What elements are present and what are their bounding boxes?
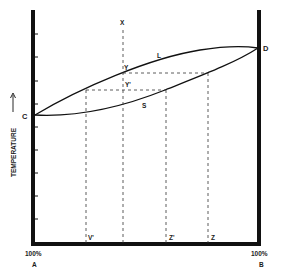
label-d: D [263,44,269,53]
label-z-prime: Z' [169,234,175,241]
axes [31,10,261,245]
label-100-b: 100% [251,250,268,257]
label-s-curve: S [142,102,147,109]
label-x: X [120,19,125,26]
label-100-a: 100% [25,250,42,257]
label-z: Z [211,234,215,241]
phase-diagram: C D X Y Y' L S V' Z' Z 100% A 100% B TEM… [0,0,282,276]
label-y: Y [124,64,129,71]
construction-lines [86,30,208,243]
label-y-prime: Y' [125,81,131,88]
y-axis-label: TEMPERATURE [10,127,17,177]
label-l-curve: L [157,52,161,59]
label-c: C [22,112,28,121]
label-b: B [259,261,264,268]
solidus-curve-S [35,48,258,115]
y-axis-label-group: TEMPERATURE [10,93,17,177]
liquidus-curve-L [35,47,258,115]
label-v-prime: V' [88,234,94,241]
left-axis-ticks [35,34,38,219]
label-a: A [32,261,37,268]
